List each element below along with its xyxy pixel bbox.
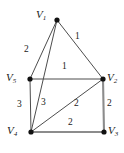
vertex-label-v5: V5	[6, 72, 16, 83]
vertex-letter: V	[6, 71, 13, 83]
edge-weight-v2-v3: 2	[107, 99, 112, 109]
vertex-index: 5	[13, 77, 17, 85]
graph-node-v1	[54, 17, 59, 22]
graph-canvas	[0, 0, 124, 153]
edge-weight-v4-v3: 2	[68, 118, 73, 128]
graph-edge-v2-v3	[103, 79, 104, 132]
edge-weight-v4-v2: 2	[74, 99, 79, 109]
edge-layer	[30, 20, 104, 132]
vertex-label-v1: V1	[36, 9, 46, 20]
vertex-label-v2: V2	[107, 72, 117, 83]
node-layer	[27, 17, 106, 134]
graph-node-v5	[27, 76, 32, 81]
graph-edge-v5-v4	[30, 79, 31, 132]
vertex-index: 4	[14, 130, 18, 138]
graph-edge-v1-v5	[30, 20, 57, 79]
vertex-letter: V	[108, 124, 115, 136]
graph-node-v2	[100, 76, 105, 81]
vertex-index: 1	[43, 14, 47, 22]
vertex-letter: V	[36, 8, 43, 20]
edge-weight-v5-v2: 1	[62, 62, 67, 72]
vertex-label-v4: V4	[7, 125, 17, 136]
graph-node-v3	[101, 129, 106, 134]
edge-weight-v1-v4: 3	[41, 98, 46, 108]
edge-weight-v1-v5: 2	[24, 45, 29, 55]
vertex-letter: V	[107, 71, 114, 83]
weighted-graph-figure: V1V2V3V4V5 21313222	[0, 0, 124, 153]
vertex-index: 3	[115, 130, 119, 138]
graph-node-v4	[28, 129, 33, 134]
edge-weight-v5-v4: 3	[17, 100, 22, 110]
vertex-letter: V	[7, 124, 14, 136]
edge-weight-v1-v2: 1	[75, 32, 80, 42]
vertex-index: 2	[114, 77, 118, 85]
vertex-label-v3: V3	[108, 125, 118, 136]
